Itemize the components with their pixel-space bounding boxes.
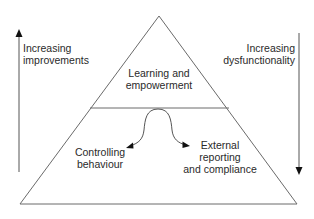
right-axis-label-line-2: dysfunctionality [223,54,295,66]
arrow-down-icon [296,167,303,175]
top-tier-label: Learning and empowerment [109,67,209,91]
controlling-behaviour-label: Controlling behaviour [62,146,138,170]
controlling-behaviour-line-1: Controlling [62,146,138,158]
diagram-canvas [0,0,314,219]
controlling-behaviour-line-2: behaviour [62,158,138,170]
split-arrow-curve [130,109,158,146]
external-reporting-line-3: and compliance [180,163,260,175]
top-tier-label-line-1: Learning and [109,67,209,79]
right-axis-label-line-1: Increasing [223,42,295,54]
external-reporting-line-2: reporting [180,151,260,163]
left-axis-label-line-2: improvements [23,54,89,66]
external-reporting-line-1: External [180,139,260,151]
top-tier-label-line-2: empowerment [109,79,209,91]
right-axis-label: Increasing dysfunctionality [223,42,295,66]
arrow-up-icon [16,29,23,37]
external-reporting-label: External reporting and compliance [180,139,260,175]
left-axis-label-line-1: Increasing [23,42,89,54]
left-axis-label: Increasing improvements [23,42,89,66]
